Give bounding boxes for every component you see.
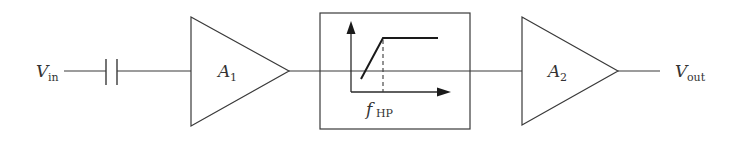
amp1-subscript: 1 [230, 71, 237, 84]
amp2-symbol: A [546, 61, 560, 81]
amp2-subscript: 2 [560, 71, 567, 84]
amplifier-a2-triangle [522, 17, 618, 125]
cutoff-symbol: f [364, 99, 375, 119]
input-subscript: in [48, 71, 59, 84]
output-subscript: out [687, 71, 706, 84]
x-axis-arrowhead-icon [437, 88, 451, 97]
cutoff-subscript: HP [376, 107, 394, 120]
amplifier-a1-triangle [191, 17, 289, 126]
amplifier-a2: A 2 [522, 17, 618, 125]
input-label: V in [36, 61, 59, 84]
amplifier-a1: A 1 [191, 17, 289, 126]
high-pass-response-curve [361, 38, 438, 79]
amp1-symbol: A [216, 61, 230, 81]
output-label: V out [675, 61, 706, 84]
coupling-capacitor [106, 59, 117, 85]
y-axis-arrowhead-icon [347, 21, 356, 34]
block-diagram: V in A 1 f HP A 2 [0, 0, 734, 146]
